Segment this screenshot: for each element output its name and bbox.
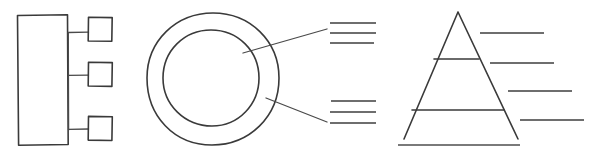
callout-lower-leader [266,98,327,122]
sketch-svg [0,0,591,157]
pyramid-diagram[interactable] [398,12,584,145]
org-block-diagram[interactable] [18,15,113,145]
branch-node-1[interactable] [88,17,112,41]
donut-callout-diagram[interactable] [147,13,376,145]
branch-node-3[interactable] [88,116,112,140]
branch-node-2[interactable] [88,62,112,86]
pyramid-outline[interactable] [404,12,518,139]
callout-lower[interactable] [266,98,376,123]
diagram-canvas [0,0,591,157]
inner-ring[interactable] [163,30,259,126]
main-block[interactable] [18,15,69,145]
callout-upper-leader [243,29,327,53]
callout-upper[interactable] [243,23,376,53]
